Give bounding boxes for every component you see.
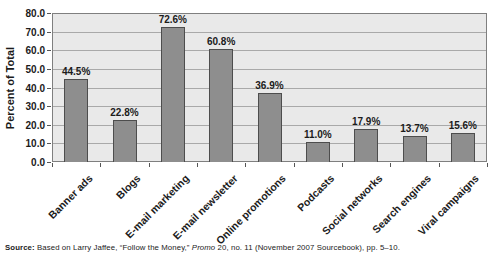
- category-label: Blogs: [114, 172, 143, 201]
- y-tick-label: 70.0: [11, 27, 45, 38]
- y-tick-label: 20.0: [11, 120, 45, 131]
- bar-value-label: 72.6%: [143, 14, 203, 25]
- gridline: [53, 50, 486, 51]
- x-axis-tick: [390, 163, 391, 167]
- x-axis-tick: [149, 163, 150, 167]
- bar: [306, 142, 330, 162]
- y-axis-tick: [47, 13, 51, 14]
- gridline: [53, 69, 486, 70]
- bar-value-label: 36.9%: [240, 80, 300, 91]
- y-tick-label: 30.0: [11, 101, 45, 112]
- y-axis-tick: [47, 162, 51, 163]
- y-tick-label: 40.0: [11, 83, 45, 94]
- bar: [161, 27, 185, 162]
- bar-value-label: 60.8%: [191, 36, 251, 47]
- source-note-text-1: Based on Larry Jaffee, “Follow the Money…: [35, 243, 192, 252]
- bar: [113, 120, 137, 162]
- y-axis-tick: [47, 106, 51, 107]
- x-axis-tick: [52, 163, 53, 167]
- bar: [209, 49, 233, 162]
- bar-value-label: 11.0%: [288, 129, 348, 140]
- x-axis-tick: [294, 163, 295, 167]
- y-axis-tick: [47, 125, 51, 126]
- y-tick-label: 60.0: [11, 45, 45, 56]
- x-axis-tick: [487, 163, 488, 167]
- category-label: Podcasts: [295, 172, 336, 213]
- bar: [451, 133, 475, 162]
- category-label: Banner ads: [46, 172, 95, 221]
- source-note: Source: Based on Larry Jaffee, “Follow t…: [5, 243, 490, 253]
- y-axis-tick: [47, 143, 51, 144]
- y-axis-tick: [47, 88, 51, 89]
- y-axis-tick: [47, 50, 51, 51]
- x-axis-tick: [439, 163, 440, 167]
- x-axis-tick: [100, 163, 101, 167]
- source-note-prefix: Source:: [5, 243, 35, 252]
- y-tick-label: 0.0: [11, 157, 45, 168]
- source-note-text-2: 20, no. 11 (November 2007 Sourcebook), p…: [215, 243, 400, 252]
- source-note-journal: Promo: [192, 243, 215, 252]
- y-tick-label: 80.0: [11, 8, 45, 19]
- bar-value-label: 44.5%: [46, 66, 106, 77]
- bar: [258, 93, 282, 162]
- y-axis-tick: [47, 32, 51, 33]
- bar-value-label: 22.8%: [95, 107, 155, 118]
- x-axis-tick: [245, 163, 246, 167]
- x-axis-tick: [342, 163, 343, 167]
- x-axis-tick: [197, 163, 198, 167]
- y-tick-label: 10.0: [11, 138, 45, 149]
- gridline: [53, 32, 486, 33]
- bar-chart-figure: Percent of Total Source: Based on Larry …: [0, 0, 493, 260]
- bar-value-label: 15.6%: [433, 120, 493, 131]
- bar: [403, 136, 427, 162]
- bar: [354, 129, 378, 162]
- y-tick-label: 50.0: [11, 64, 45, 75]
- bar: [64, 79, 88, 162]
